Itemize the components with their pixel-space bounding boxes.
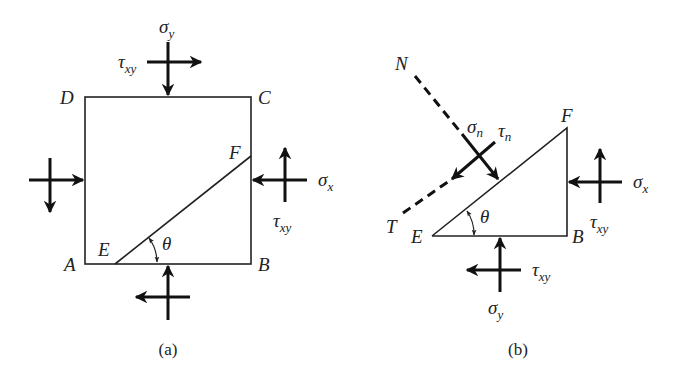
panel-a: θ D C A B E F σy τxy σx τxy (a)	[29, 16, 333, 359]
wedge-element	[432, 128, 567, 236]
caption-b: (b)	[508, 340, 528, 359]
tau-xy-right-label: τxy	[590, 211, 609, 236]
axis-t-label: T	[386, 216, 398, 237]
sigma-n-label: σn	[467, 116, 483, 140]
theta-arc-icon	[149, 238, 157, 262]
vertex-f-label: F	[560, 105, 573, 126]
sigma-y-top-label: σy	[159, 16, 174, 41]
vertex-e-label: E	[97, 239, 110, 260]
vertex-a-label: A	[62, 254, 76, 275]
tau-xy-right-label: τxy	[273, 210, 292, 235]
vertex-d-label: D	[59, 87, 74, 108]
sigma-y-bottom-label: σy	[488, 297, 503, 322]
caption-a: (a)	[159, 340, 178, 359]
tangent-axis-t	[403, 179, 452, 213]
angle-theta-label: θ	[162, 233, 171, 254]
theta-arc-icon	[467, 211, 474, 235]
sigma-x-label: σx	[318, 169, 333, 194]
sigma-x-label: σx	[633, 171, 648, 196]
axis-n-label: N	[394, 53, 409, 74]
inclined-plane-ef	[115, 156, 251, 264]
vertex-e-label: E	[410, 226, 423, 247]
normal-axis-n	[415, 76, 462, 134]
tau-xy-bottom-label: τxy	[532, 259, 551, 284]
panel-b: θ N T E F B σn τn σx τxy τxy σy (b)	[386, 53, 648, 359]
tau-xy-top-label: τxy	[118, 51, 137, 76]
vertex-c-label: C	[258, 87, 271, 108]
vertex-b-label: B	[258, 254, 270, 275]
angle-theta-label: θ	[480, 206, 489, 227]
tau-n-label: τn	[498, 120, 511, 144]
vertex-f-label: F	[228, 142, 241, 163]
vertex-b-label: B	[572, 226, 584, 247]
stress-element-diagram: θ D C A B E F σy τxy σx τxy (a)	[0, 0, 679, 386]
